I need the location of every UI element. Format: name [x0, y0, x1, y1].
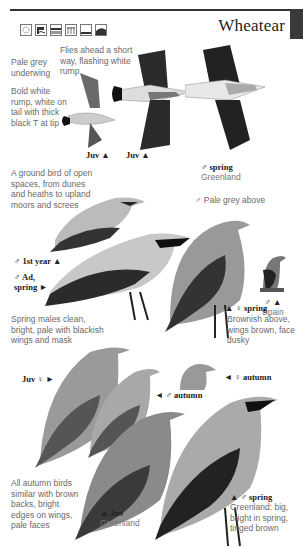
autumn-birds-note: All autumn birds similar with brown back…	[11, 478, 79, 531]
mountain-icon	[95, 24, 107, 36]
underwing-note: Pale grey underwing	[11, 57, 56, 78]
farmland-icon	[65, 24, 77, 36]
male-spring-greenland-flight-illustration	[185, 45, 265, 155]
page-title: Wheatear	[218, 16, 285, 36]
male-spain-illustration	[258, 250, 288, 295]
male-spring-greenland2-label: ▲ ♂ spring	[230, 492, 272, 502]
male-ad-spring-label-line2: spring ►	[14, 282, 48, 292]
juv-label-2: Juv ▲	[126, 150, 150, 160]
pale-grey-above-note: ♂ Pale grey above	[195, 195, 295, 206]
male-1st-year-label: ♂ 1st year ▲	[14, 256, 61, 266]
male-spring-greenland2-note: Greenland: big, bright in spring, tinged…	[230, 502, 300, 534]
juv-label-1: Juv ▲	[86, 150, 110, 160]
wetland-icon	[50, 24, 62, 36]
juv-female-label: Juv ♀ ►	[22, 374, 54, 384]
juv-greenland-label: ▲ Juv Greenland	[100, 508, 140, 528]
header-rule	[10, 9, 303, 11]
female-spring-note: Brownish above, wings brown, face dusky	[227, 314, 297, 346]
habitat-icons	[20, 24, 107, 36]
male-ad-spring-label-line1: ♂ Ad,	[14, 272, 35, 282]
heath-icon	[20, 24, 32, 36]
coast-icon	[35, 24, 47, 36]
male-autumn-label: ◄ ♂ autumn	[155, 390, 202, 400]
juv-flight-illustration-2	[110, 50, 190, 160]
male-spring-greenland-label: ♂ spring Greenland	[201, 162, 241, 182]
female-spring-label: ▲ ♀ spring	[225, 303, 267, 313]
grassland-icon	[80, 24, 92, 36]
section-tab	[290, 9, 303, 39]
female-autumn-label: ◄ ♀ autumn	[224, 372, 271, 382]
